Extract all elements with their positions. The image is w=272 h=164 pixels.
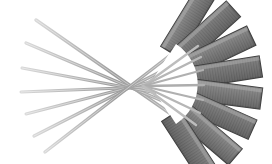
figure-root: Fan-shaped detector array with convergin… — [0, 0, 272, 164]
fan-array-illustration — [0, 0, 272, 164]
